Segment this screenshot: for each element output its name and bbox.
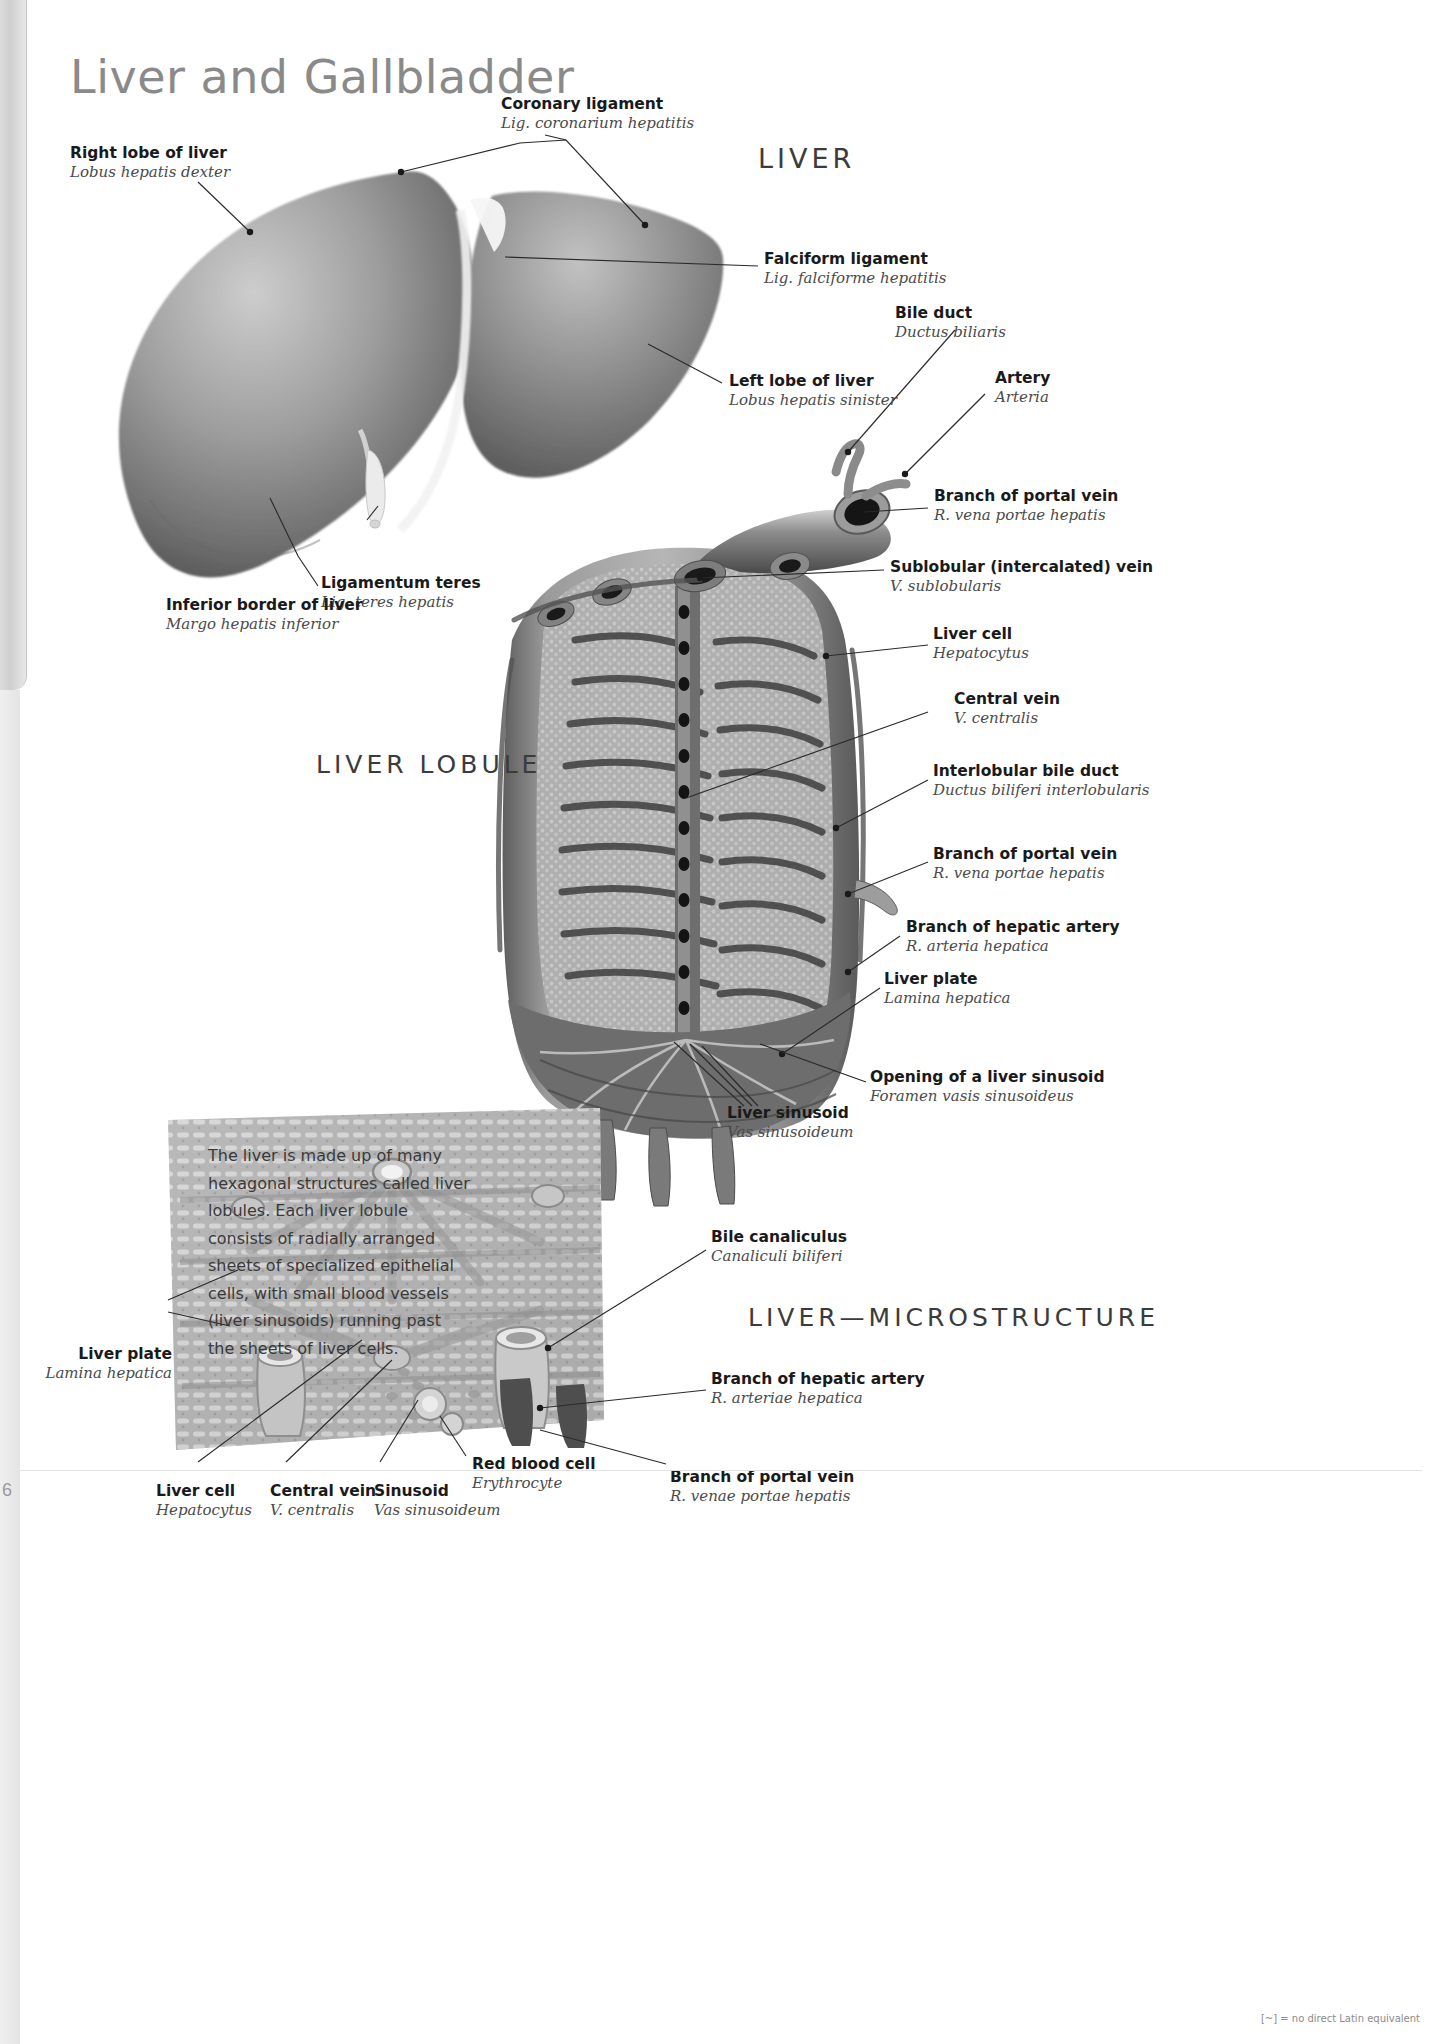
label-liver-plate-micro: Liver plate Lamina hepatica [0,1345,172,1382]
label-en: Opening of a liver sinusoid [870,1068,1104,1087]
label-interlobular-bile-duct: Interlobular bile duct Ductus biliferi i… [933,762,1149,799]
label-la: Lobus hepatis dexter [70,163,230,181]
label-right-lobe-of-liver: Right lobe of liver Lobus hepatis dexter [70,144,230,181]
label-la: Arteria [995,388,1050,406]
label-sublobular-vein: Sublobular (intercalated) vein V. sublob… [890,558,1153,595]
label-liver-cell-lobule: Liver cell Hepatocytus [933,625,1029,662]
folio-number: 6 [2,1480,12,1501]
label-en: Branch of hepatic artery [906,918,1120,937]
label-la: Ductus biliaris [895,323,1006,341]
label-en: Liver cell [933,625,1029,644]
label-central-vein-micro: Central vein V. centralis [270,1482,376,1519]
label-en: Liver sinusoid [727,1104,854,1123]
section-title-microstructure: LIVER—MICROSTRUCTURE [748,1303,1159,1332]
label-falciform-ligament: Falciform ligament Lig. falciforme hepat… [764,250,946,287]
label-en: Central vein [270,1482,376,1501]
label-la: V. sublobularis [890,577,1153,595]
label-central-vein-lobule: Central vein V. centralis [954,690,1060,727]
section-title-liver: LIVER [758,143,855,174]
label-la: Erythrocyte [472,1474,595,1492]
liver-organ-illustration [119,171,723,577]
label-en: Ligamentum teres [321,574,481,593]
label-la: R. venae portae hepatis [670,1487,854,1505]
anatomical-artwork [0,0,1442,2044]
label-la: V. centralis [270,1501,376,1519]
label-la: Vas sinusoideum [727,1123,854,1141]
label-la: Hepatocytus [156,1501,252,1519]
footnote: [~] = no direct Latin equivalent [1261,2013,1420,2024]
label-la: Hepatocytus [933,644,1029,662]
label-en: Falciform ligament [764,250,946,269]
label-branch-of-hepatic-artery-micro: Branch of hepatic artery R. arteriae hep… [711,1370,925,1407]
label-en: Central vein [954,690,1060,709]
label-en: Coronary ligament [501,95,694,114]
label-red-blood-cell: Red blood cell Erythrocyte [472,1455,595,1492]
label-bile-canaliculus: Bile canaliculus Canaliculi biliferi [711,1228,847,1265]
label-branch-of-portal-vein-upper: Branch of portal vein R. vena portae hep… [934,487,1118,524]
label-la: V. centralis [954,709,1060,727]
label-liver-cell-micro: Liver cell Hepatocytus [156,1482,252,1519]
label-branch-of-portal-vein-lower: Branch of portal vein R. vena portae hep… [933,845,1117,882]
lobule-description-paragraph: The liver is made up of many hexagonal s… [208,1142,470,1362]
label-en: Bile duct [895,304,1006,323]
label-liver-sinusoid: Liver sinusoid Vas sinusoideum [727,1104,854,1141]
label-la: Vas sinusoideum [374,1501,501,1519]
label-artery: Artery Arteria [995,369,1050,406]
label-en: Branch of portal vein [934,487,1118,506]
label-en: Right lobe of liver [70,144,230,163]
label-la: Margo hepatis inferior [166,615,362,633]
label-liver-plate-lobule: Liver plate Lamina hepatica [884,970,1011,1007]
page-title: Liver and Gallbladder [70,50,574,104]
label-en: Left lobe of liver [729,372,897,391]
label-en: Red blood cell [472,1455,595,1474]
label-la: Foramen vasis sinusoideus [870,1087,1104,1105]
label-branch-of-portal-vein-micro: Branch of portal vein R. venae portae he… [670,1468,854,1505]
label-la: Lig. coronarium hepatitis [501,114,694,132]
label-la: R. arteriae hepatica [711,1389,925,1407]
bottom-rule [20,1470,1422,1471]
label-bile-duct: Bile duct Ductus biliaris [895,304,1006,341]
label-branch-of-hepatic-artery-lobule: Branch of hepatic artery R. arteria hepa… [906,918,1120,955]
label-la: R. vena portae hepatis [934,506,1118,524]
label-en: Liver plate [884,970,1011,989]
label-coronary-ligament: Coronary ligament Lig. coronarium hepati… [501,95,694,132]
label-la: Ductus biliferi interlobularis [933,781,1149,799]
label-en: Branch of portal vein [933,845,1117,864]
label-la: Lobus hepatis sinister [729,391,897,409]
label-left-lobe-of-liver: Left lobe of liver Lobus hepatis siniste… [729,372,897,409]
label-la: R. vena portae hepatis [933,864,1117,882]
section-title-liver-lobule: LIVER LOBULE [316,750,541,779]
label-en: Liver cell [156,1482,252,1501]
label-la: Lig. falciforme hepatitis [764,269,946,287]
atlas-page: Liver and Gallbladder LIVER LIVER LOBULE… [0,0,1442,2044]
liver-lobule-illustration [499,444,907,1206]
label-opening-of-a-liver-sinusoid: Opening of a liver sinusoid Foramen vasi… [870,1068,1104,1105]
label-en: Artery [995,369,1050,388]
label-la: Lamina hepatica [0,1364,172,1382]
label-en: Branch of hepatic artery [711,1370,925,1389]
label-la: Canaliculi biliferi [711,1247,847,1265]
label-la: R. arteria hepatica [906,937,1120,955]
label-en: Bile canaliculus [711,1228,847,1247]
label-en: Interlobular bile duct [933,762,1149,781]
label-en: Inferior border of liver [166,596,362,615]
label-en: Liver plate [0,1345,172,1364]
label-en: Sublobular (intercalated) vein [890,558,1153,577]
label-inferior-border-of-liver: Inferior border of liver Margo hepatis i… [166,596,362,633]
label-la: Lamina hepatica [884,989,1011,1007]
